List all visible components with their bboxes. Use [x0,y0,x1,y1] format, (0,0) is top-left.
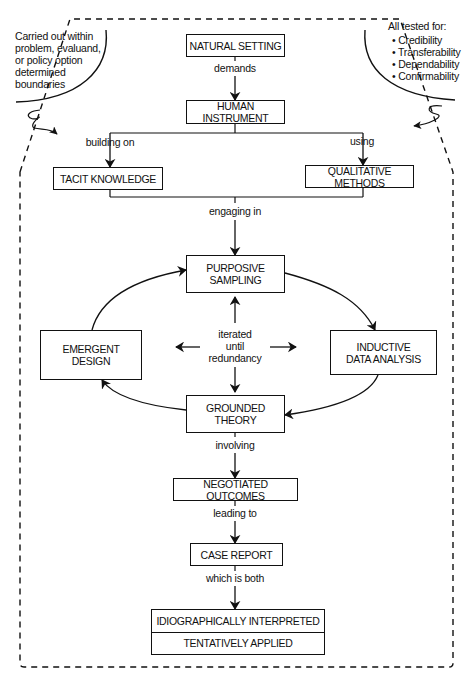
node-label: NATURAL SETTING [190,40,282,52]
left-note-line: Carried out within [15,30,101,42]
node-negotiated-outcomes: NEGOTIATED OUTCOMES [173,478,298,501]
node-tacit-knowledge: TACIT KNOWLEDGE [53,167,163,190]
node-natural-setting: NATURAL SETTING [186,34,285,57]
node-label: IDIOGRAPHICALLY INTERPRETED [156,615,319,627]
right-note-title: All tested for: [388,20,461,32]
node-final-outcome: IDIOGRAPHICALLY INTERPRETED TENTATIVELY … [151,609,325,655]
center-label-line: redundancy [209,352,262,364]
left-note-line: or policy option [15,54,101,66]
criterion-dependability: Dependability [392,58,461,70]
node-label: INDUCTIVE [357,341,411,353]
criterion-transferability: Transferability [392,46,461,58]
criterion-confirmability: Confirmability [392,70,461,82]
center-label-line: until [209,340,262,352]
node-case-report: CASE REPORT [190,543,283,566]
left-note: Carried out within problem, evaluand, or… [15,30,101,90]
left-squiggle-arrow [28,110,57,134]
node-label: EMERGENT [62,343,119,355]
node-inductive-data-analysis: INDUCTIVE DATA ANALYSIS [330,330,437,375]
node-purposive-sampling: PURPOSIVE SAMPLING [186,255,285,293]
node-idiographically-interpreted: IDIOGRAPHICALLY INTERPRETED [152,610,324,632]
left-note-line: problem, evaluand, [15,42,101,54]
edge-label-which-is-both: which is both [206,572,264,584]
node-label: NEGOTIATED OUTCOMES [174,478,297,502]
left-note-line: boundaries [15,78,101,90]
arc-sampling-to-analysis [285,273,375,330]
edge-label-building-on: building on [86,136,135,148]
node-emergent-design: EMERGENT DESIGN [40,330,142,380]
node-label: TACIT KNOWLEDGE [60,173,156,185]
node-label: CASE REPORT [201,549,273,561]
arc-theory-to-design [102,380,186,410]
node-label: THEORY [215,414,257,426]
edge-label-engaging-in: engaging in [209,205,261,217]
node-label: HUMAN INSTRUMENT [187,100,284,124]
node-label: TENTATIVELY APPLIED [183,637,292,649]
node-qualitative-methods: QUALITATIVE METHODS [305,165,414,188]
center-label: iterated until redundancy [209,328,262,364]
node-label: DESIGN [72,355,110,367]
left-note-line: determined [15,66,101,78]
center-label-line: iterated [209,328,262,340]
node-label: SAMPLING [210,274,262,286]
node-grounded-theory: GROUNDED THEORY [186,395,285,433]
edge-label-using: using [350,135,374,147]
right-squiggle-arrow [414,106,442,126]
right-note: All tested for: Credibility Transferabil… [388,20,461,82]
node-label: QUALITATIVE METHODS [306,165,413,189]
node-tentatively-applied: TENTATIVELY APPLIED [152,632,324,655]
arc-design-to-sampling [92,270,186,330]
node-label: PURPOSIVE [206,262,265,274]
edge-label-leading-to: leading to [213,507,257,519]
node-label: DATA ANALYSIS [346,353,421,365]
criteria-list: Credibility Transferability Dependabilit… [392,34,461,82]
node-human-instrument: HUMAN INSTRUMENT [186,100,285,124]
edge-label-involving: involving [215,439,254,451]
edge-label-demands: demands [214,62,256,74]
node-label: GROUNDED [206,402,265,414]
criterion-credibility: Credibility [392,34,461,46]
arc-analysis-to-theory [285,375,378,415]
